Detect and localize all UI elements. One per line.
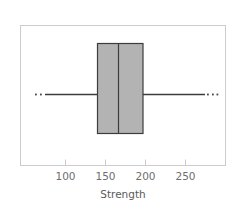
outlier-point (207, 94, 209, 96)
x-axis-title: Strength (100, 188, 145, 200)
boxplot-canvas: 100 150 200 250 Strength (0, 0, 243, 205)
box-iqr (98, 44, 144, 134)
outlier-point (35, 94, 37, 96)
boxplot-figure: 100 150 200 250 Strength (0, 0, 243, 205)
outliers-high (207, 94, 218, 96)
outlier-point (212, 94, 214, 96)
x-tick-label-250: 250 (175, 170, 195, 182)
x-tick-label-100: 100 (55, 170, 75, 182)
outlier-point (217, 94, 219, 96)
outlier-point (40, 94, 42, 96)
x-tick-label-150: 150 (95, 170, 115, 182)
x-tick-label-200: 200 (135, 170, 155, 182)
